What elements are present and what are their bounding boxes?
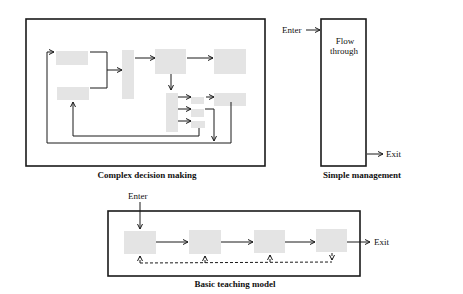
complex-feedback-inner bbox=[73, 102, 199, 136]
basic-stage-4 bbox=[316, 229, 347, 252]
complex-connector-merge bbox=[90, 52, 107, 88]
simple-body-line1: Flow bbox=[334, 36, 356, 46]
complex-box-input-2 bbox=[57, 87, 89, 100]
basic-teaching-diagram bbox=[108, 202, 370, 276]
complex-box-small-2 bbox=[191, 109, 204, 117]
complex-box-input-1 bbox=[56, 51, 88, 65]
complex-box-small-3 bbox=[191, 121, 205, 128]
complex-box-process bbox=[155, 49, 186, 74]
basic-enter-label: Enter bbox=[128, 191, 148, 201]
complex-bar-branch bbox=[166, 93, 178, 132]
basic-stage-1 bbox=[124, 231, 156, 254]
simple-body-line2: through bbox=[327, 46, 361, 56]
complex-box-right bbox=[214, 93, 246, 106]
basic-stage-3 bbox=[254, 230, 285, 253]
simple-enter-label: Enter bbox=[282, 25, 302, 35]
complex-connector-small-2 bbox=[205, 109, 214, 141]
complex-box-output bbox=[214, 49, 246, 74]
complex-box-small-1 bbox=[191, 97, 204, 104]
simple-exit-label: Exit bbox=[386, 149, 401, 159]
basic-caption: Basic teaching model bbox=[190, 279, 280, 289]
simple-caption: Simple management bbox=[322, 170, 402, 180]
complex-caption: Complex decision making bbox=[92, 170, 202, 180]
basic-stage-2 bbox=[189, 230, 221, 254]
diagram-canvas bbox=[0, 0, 463, 294]
complex-bar-merge bbox=[122, 50, 134, 99]
basic-exit-label: Exit bbox=[374, 237, 389, 247]
complex-decision-diagram bbox=[26, 19, 265, 166]
basic-feedback-dashed bbox=[140, 262, 332, 263]
